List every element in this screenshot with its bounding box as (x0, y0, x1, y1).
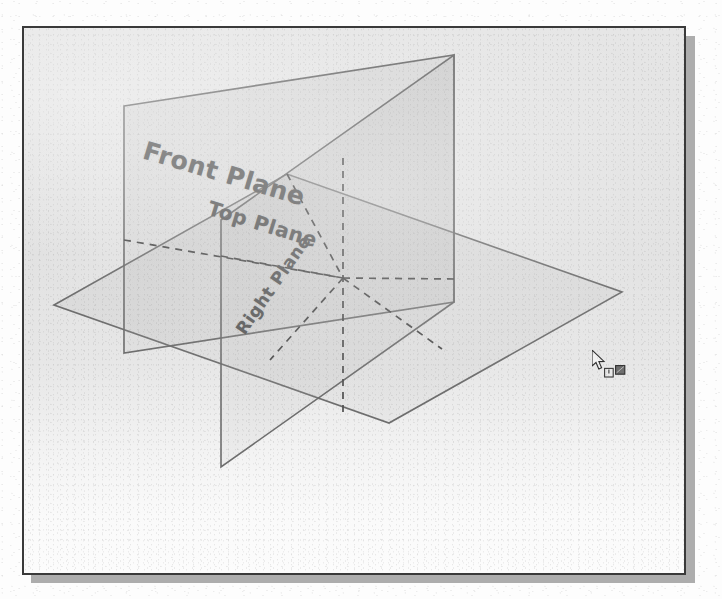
figure-frame: Front Plane Top Plane Right Plane (22, 26, 686, 575)
hidden-line-top-right (343, 278, 454, 279)
reference-planes-drawing[interactable] (24, 28, 684, 573)
page-background: Front Plane Top Plane Right Plane (0, 0, 722, 599)
